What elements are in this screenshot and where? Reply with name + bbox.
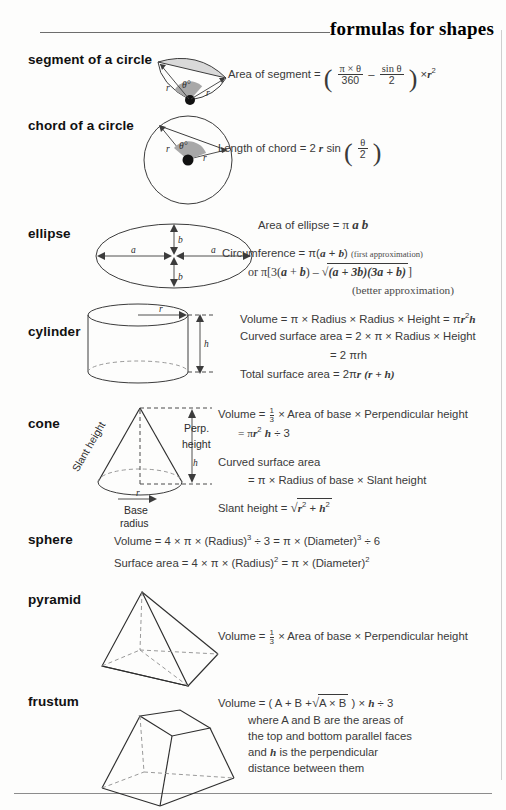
cone-diagram: Perp. height h r Base radius Slant heigh…	[62, 400, 232, 525]
section-pyramid: pyramid Volume = 13 × Area of base × Per…	[0, 588, 506, 692]
shape-label-ellipse: ellipse	[28, 226, 71, 241]
cone-perp-label-line1: Perp.	[184, 422, 209, 434]
page-title: formulas for shapes	[330, 18, 494, 40]
ellipse-b-bottom-label: b	[178, 272, 183, 282]
shape-label-cone: cone	[28, 416, 60, 431]
section-cone: cone Perp. height h r Base radius Slant …	[0, 398, 506, 523]
frustum-note-line-4: distance between them	[248, 760, 364, 776]
segment-radius-label-2: r	[206, 88, 210, 98]
section-segment-of-a-circle: segment of a circle r r θ° Area of segme…	[0, 48, 506, 110]
ellipse-b-top-label: b	[178, 235, 183, 245]
cone-height-label: h	[193, 458, 198, 468]
page-header: formulas for shapes	[0, 14, 506, 44]
formula-frustum-volume: Volume = ( A + B +√A × B ) × h ÷ 3	[218, 694, 393, 713]
ellipse-a-right-label: a	[211, 245, 216, 255]
section-sphere: sphere Volume = 4 × π × (Radius)3 ÷ 3 = …	[0, 528, 506, 572]
header-rule	[40, 32, 330, 33]
section-chord-of-a-circle: chord of a circle r r θ° Length of chord…	[0, 112, 506, 207]
section-frustum: frustum Volume = ( A + B +√A × B ) × h ÷…	[0, 690, 506, 794]
cone-radius-label: r	[136, 488, 140, 498]
cone-base-label-line1: Base	[124, 504, 148, 516]
formula-sphere-volume: Volume = 4 × π × (Radius)3 ÷ 3 = π × (Di…	[114, 532, 380, 549]
formula-ellipse-circumference-better: or π[3(a + b) – √(a + 3b)(3a + b)]	[248, 263, 412, 281]
cone-slant-height-label: Slant height	[69, 419, 107, 473]
chord-radius-label-2: r	[203, 153, 207, 163]
formula-cylinder-total-surface-area: Total surface area = 2πr (r + h)	[240, 366, 395, 382]
shape-label-segment: segment of a circle	[28, 52, 152, 67]
formula-ellipse-circumference: Circumference = π(a + b) (first approxim…	[222, 245, 423, 261]
frustum-note-line-3: and h is the perpendicular	[248, 744, 378, 760]
formula-cylinder-volume: Volume = π × Radius × Radius × Height = …	[240, 310, 476, 327]
chord-theta-label: θ°	[179, 141, 188, 151]
formula-length-of-chord: Length of chord = 2 r sin ( θ2 )	[218, 134, 381, 172]
frustum-note-line-1: where A and B are the areas of	[248, 712, 403, 728]
formula-cone-volume: Volume = 13 × Area of base × Perpendicul…	[218, 406, 468, 424]
formula-cone-volume-simplified: = πr2 h ÷ 3	[238, 424, 290, 441]
section-cylinder: cylinder r h Volume = π × Radius × Radiu…	[0, 300, 506, 392]
formula-area-of-segment: Area of segment = ( π × θ360 – sin θ2 ) …	[228, 60, 436, 98]
shape-label-cylinder: cylinder	[28, 324, 81, 339]
cylinder-diagram: r h	[80, 302, 220, 394]
segment-theta-label: θ°	[182, 80, 191, 90]
ellipse-better-approximation-note: (better approximation)	[352, 282, 454, 298]
formula-cone-curved-surface-area-label: Curved surface area	[218, 454, 320, 470]
segment-radius-label-1: r	[166, 83, 170, 93]
formula-cone-slant-height: Slant height = √r2 + h2	[218, 498, 332, 518]
shape-label-pyramid: pyramid	[28, 592, 81, 607]
formula-cylinder-curved-surface-area: Curved surface area = 2 × π × Radius × H…	[240, 328, 476, 344]
cone-perp-label-line2: height	[182, 438, 211, 450]
formula-sphere-surface-area: Surface area = 4 × π × (Radius)2 = π × (…	[114, 554, 370, 571]
formula-cone-curved-surface-area: = π × Radius of base × Slant height	[248, 472, 426, 488]
frustum-note-line-2: the top and bottom parallel faces	[248, 728, 412, 744]
shape-label-chord: chord of a circle	[28, 118, 134, 133]
cylinder-height-label: h	[204, 339, 209, 349]
formula-cylinder-curved-surface-area-simplified: = 2 πrh	[330, 347, 367, 363]
chord-radius-label-1: r	[166, 144, 170, 154]
formula-area-of-ellipse: Area of ellipse = π a b	[258, 216, 368, 235]
ellipse-a-left-label: a	[131, 245, 136, 255]
section-ellipse: ellipse a a b b Area of ellipse = π a b	[0, 212, 506, 298]
cylinder-radius-label: r	[159, 304, 163, 314]
shape-label-frustum: frustum	[28, 694, 79, 709]
shape-label-sphere: sphere	[28, 532, 73, 547]
formula-pyramid-volume: Volume = 13 × Area of base × Perpendicul…	[218, 628, 468, 646]
